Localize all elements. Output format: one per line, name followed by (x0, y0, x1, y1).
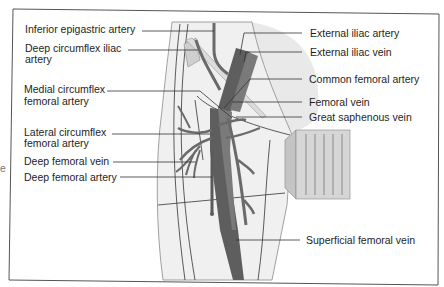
ultrasound-transducer (285, 130, 350, 199)
label-deep-circumflex-iliac-artery-line2: artery (25, 53, 53, 65)
transducer-side (285, 130, 296, 199)
deep-femoral-vessel-end (210, 212, 214, 216)
label-lateral-circumflex-femoral-artery-line2: femoral artery (24, 137, 90, 149)
label-medial-circumflex-femoral-artery-line2: femoral artery (24, 95, 90, 107)
label-superficial-femoral-vein: Superficial femoral vein (306, 234, 415, 246)
label-common-femoral-artery: Common femoral artery (309, 73, 420, 85)
label-deep-femoral-vein: Deep femoral vein (24, 155, 109, 167)
label-great-saphenous-vein: Great saphenous vein (309, 111, 412, 123)
label-medial-circumflex-femoral-artery: Medial circumflex (24, 83, 106, 95)
label-inferior-epigastric-artery: Inferior epigastric artery (25, 23, 136, 35)
edge-fragment-text: e (0, 162, 6, 174)
label-deep-femoral-artery: Deep femoral artery (24, 171, 118, 183)
anatomy-diagram: e (0, 0, 444, 287)
label-external-iliac-artery: External iliac artery (310, 27, 400, 39)
label-external-iliac-vein: External iliac vein (310, 46, 392, 58)
label-femoral-vein: Femoral vein (309, 96, 370, 108)
